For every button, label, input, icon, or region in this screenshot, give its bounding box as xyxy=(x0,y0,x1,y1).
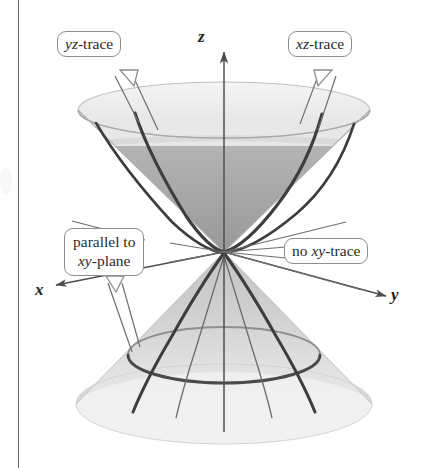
callout-parallel-to-xy-plane[interactable]: parallel to xy-plane xyxy=(64,228,144,276)
callout-no-xy-suffix: -trace xyxy=(325,242,360,259)
callout-parallel-italic: xy xyxy=(78,252,92,269)
callout-no-xy-italic: xy xyxy=(311,242,325,259)
figure-root: yz-trace xz-trace parallel to xy-plane n… xyxy=(0,0,431,468)
callout-xz-trace-suffix: -trace xyxy=(309,35,344,52)
tail-yz-trace xyxy=(120,70,138,86)
callout-yz-trace-suffix: -trace xyxy=(78,35,113,52)
x-axis-label: x xyxy=(35,280,44,300)
callout-parallel-line2: xy-plane xyxy=(73,252,135,271)
z-axis-label: z xyxy=(198,27,205,47)
callout-xz-trace[interactable]: xz-trace xyxy=(288,31,352,57)
callout-parallel-suffix: -plane xyxy=(92,252,131,269)
callout-yz-trace[interactable]: yz-trace xyxy=(57,31,121,57)
y-axis-label: y xyxy=(391,285,399,305)
tail-xz-trace xyxy=(314,70,332,86)
callout-parallel-line1: parallel to xyxy=(73,233,135,252)
leader-parallel-down-a xyxy=(108,283,132,352)
callout-no-xy-trace[interactable]: no xy-trace xyxy=(284,238,368,264)
callout-xz-trace-italic: xz xyxy=(296,35,309,52)
leader-parallel-down-b xyxy=(122,283,140,347)
callout-no-xy-prefix: no xyxy=(292,242,311,259)
callout-yz-trace-italic: yz xyxy=(65,35,78,52)
